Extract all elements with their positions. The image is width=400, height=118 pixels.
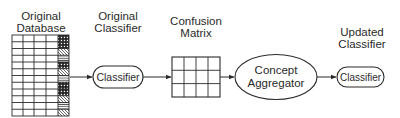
database-table [12, 35, 69, 116]
updated-classifier-node: Classifier [337, 67, 384, 87]
confusion-matrix [172, 57, 220, 97]
concept-aggregator-node: Concept Aggregator [235, 55, 317, 100]
updated-classifier-node-label: Classifier [340, 72, 382, 83]
original-classifier-node: Classifier [93, 66, 143, 88]
concept-aggregator-label-line2: Aggregator [248, 77, 305, 89]
original-classifier-node-label: Classifier [96, 71, 140, 83]
concept-aggregator-label-line1: Concept [255, 64, 299, 76]
pipeline-diagram: Classifier Concept Aggregator Classifier [0, 0, 400, 118]
